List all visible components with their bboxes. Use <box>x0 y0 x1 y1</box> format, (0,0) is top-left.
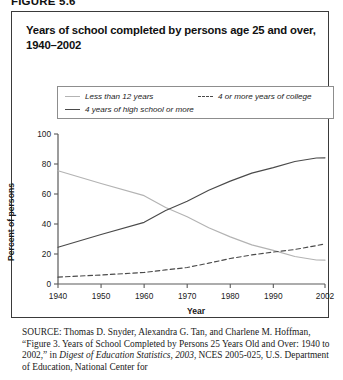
x-tick-label: 2002 <box>316 291 335 301</box>
x-tick-label: 1980 <box>221 291 240 301</box>
y-tick-label: 100 <box>37 129 51 139</box>
y-tick-label: 20 <box>42 249 52 259</box>
source-label: SOURCE: <box>22 327 62 337</box>
y-tick-label: 60 <box>42 189 52 199</box>
chart-axes <box>54 134 325 288</box>
legend-item-label: 4 or more years of college <box>218 92 312 101</box>
x-axis-tick-labels: 1940195019601970198019902002 <box>49 291 335 301</box>
legend-item-less-than-12: Less than 12 years <box>65 92 153 101</box>
figure-title: Years of school completed by persons age… <box>26 23 316 52</box>
y-axis-tick-labels: 020406080100 <box>37 129 51 289</box>
x-tick-label: 1990 <box>264 291 283 301</box>
y-axis-title: Percent of persons <box>6 183 16 261</box>
x-tick-label: 1970 <box>178 291 197 301</box>
chart-plot-area: 020406080100 194019501960197019801990200… <box>0 112 343 322</box>
legend-swatch-icon <box>65 109 80 110</box>
x-tick-label: 1940 <box>49 291 68 301</box>
y-tick-label: 0 <box>46 279 51 289</box>
line-chart-svg: 020406080100 194019501960197019801990200… <box>0 112 343 322</box>
chart-line-less-than-12-years <box>58 171 325 260</box>
figure-label: FIGURE 5.6 <box>11 0 76 7</box>
chart-series-lines <box>58 158 325 277</box>
x-tick-label: 1960 <box>135 291 154 301</box>
legend-item-label: Less than 12 years <box>85 92 153 101</box>
x-axis-title: Year <box>187 306 206 316</box>
chart-line-4-or-more-years-of-college <box>58 244 325 277</box>
legend-item-college: 4 or more years of college <box>198 92 312 101</box>
legend-swatch-dashed-icon <box>198 96 213 97</box>
x-tick-label: 1950 <box>92 291 111 301</box>
legend-swatch-icon <box>65 96 80 97</box>
source-note: SOURCE: Thomas D. Snyder, Alexandra G. T… <box>22 327 332 373</box>
y-tick-label: 80 <box>42 159 52 169</box>
source-italic-title: Digest of Education Statistics, 2003 <box>59 350 194 360</box>
y-tick-label: 40 <box>42 219 52 229</box>
chart-line-4-years-of-high-school-or-more <box>58 158 325 247</box>
